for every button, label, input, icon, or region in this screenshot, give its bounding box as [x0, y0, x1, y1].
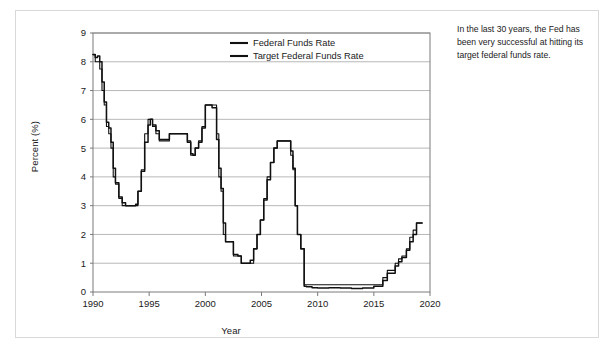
- federal-funds-rate-line-chart: 01234567891990199520002005201020152020Fe…: [16, 11, 448, 339]
- x-tick-label: 2010: [307, 298, 328, 309]
- y-tick-label: 7: [81, 85, 86, 96]
- y-tick-label: 0: [81, 286, 86, 297]
- x-tick-label: 2000: [195, 298, 216, 309]
- legend-label: Target Federal Funds Rate: [253, 51, 364, 61]
- plot-background: [93, 33, 430, 292]
- x-tick-label: 2005: [251, 298, 272, 309]
- y-tick-label: 5: [81, 143, 86, 154]
- chart-card: 01234567891990199520002005201020152020Fe…: [15, 10, 599, 338]
- y-tick-label: 2: [81, 229, 86, 240]
- y-tick-label: 8: [81, 56, 86, 67]
- x-tick-label: 2015: [363, 298, 384, 309]
- x-tick-label: 1990: [82, 298, 103, 309]
- y-tick-label: 4: [81, 171, 86, 182]
- legend-label: Federal Funds Rate: [253, 38, 335, 48]
- annotation-note: In the last 30 years, the Fed has been v…: [457, 23, 593, 63]
- chart-region: 01234567891990199520002005201020152020Fe…: [16, 11, 448, 339]
- y-tick-label: 9: [81, 27, 86, 38]
- x-tick-label: 2020: [419, 298, 440, 309]
- x-tick-label: 1995: [139, 298, 160, 309]
- y-tick-label: 1: [81, 258, 86, 269]
- x-axis-title: Year: [191, 325, 271, 336]
- y-axis-title: Percent (%): [29, 102, 40, 192]
- y-tick-label: 3: [81, 200, 86, 211]
- y-tick-label: 6: [81, 114, 86, 125]
